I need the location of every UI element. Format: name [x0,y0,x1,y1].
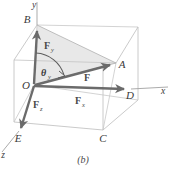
vector-label-fz: F z [33,99,43,112]
y-axis-label: y [31,0,37,10]
vector-label-f: F [84,72,90,83]
cube-edge-top-left [14,25,37,60]
vector-label-fx-subscript: x [81,101,85,108]
point-d-label: D [125,89,134,101]
vector-label-fy-symbol: F [44,40,50,51]
z-axis-label: z [0,150,5,160]
x-axis-label: x [160,86,166,96]
cube-edge-top-back [37,25,138,27]
cube-wireframe [14,25,138,130]
point-a-label: A [118,58,126,70]
vector-label-fz-subscript: z [39,105,43,112]
point-c-label: C [99,132,107,144]
angle-label-theta-y-symbol: θ [41,67,47,78]
angle-label-theta-y-subscript: y [47,73,51,80]
point-b-label: B [24,13,31,25]
vector-fx-arrow [34,86,124,89]
vector-label-fy-subscript: y [50,46,54,53]
vector-label-f-symbol: F [84,72,90,83]
vector-label-fx: F x [75,95,85,108]
cube-edge-front-bottom [14,122,103,130]
point-e-label: E [14,132,22,144]
vector-label-fz-symbol: F [33,99,39,110]
figure-caption: (b) [77,154,89,166]
origin-label: O [22,79,30,91]
figure-drawing: y x z B O A D C E F y F F x F z θ y [0,0,172,180]
vector-label-fx-symbol: F [75,95,81,106]
figure-container: y x z B O A D C E F y F F x F z θ y [0,0,172,180]
